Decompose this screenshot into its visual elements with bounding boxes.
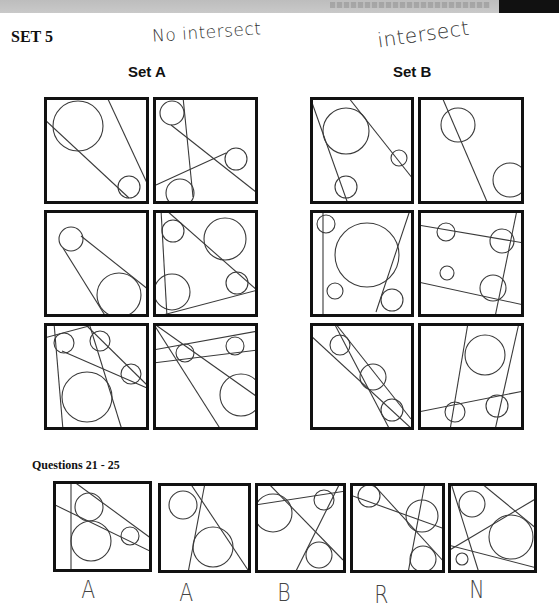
figure-circle xyxy=(154,274,190,310)
figure-circle xyxy=(459,491,485,517)
figure-circle xyxy=(90,331,110,351)
set-a-figure-6 xyxy=(153,323,258,430)
figure-line xyxy=(84,323,147,385)
figure-circle xyxy=(225,148,247,170)
figure-line xyxy=(418,225,524,243)
figure-circle xyxy=(317,215,335,233)
figure-line xyxy=(62,351,147,388)
figure-line xyxy=(107,97,147,183)
figure-line xyxy=(372,483,445,563)
figure-frame xyxy=(160,485,250,572)
handwritten-answer-24: R xyxy=(374,581,388,609)
set-a-figure-5 xyxy=(44,323,149,430)
figure-circle xyxy=(327,283,343,299)
figure-line xyxy=(73,481,152,539)
figure-circle xyxy=(54,333,74,353)
figure-circle xyxy=(254,494,292,532)
set-b-figure-3 xyxy=(310,210,414,317)
figure-line xyxy=(161,210,167,317)
figure-circle xyxy=(53,101,103,151)
figure-circle xyxy=(381,289,403,311)
page-title: SET 5 xyxy=(11,28,53,46)
figure-line xyxy=(348,97,413,179)
figure-line xyxy=(163,290,258,315)
figure-circle xyxy=(226,272,248,294)
set-b-figure-2 xyxy=(418,97,524,204)
figure-line xyxy=(63,248,106,317)
set-b-title: Set B xyxy=(393,63,431,80)
set-b-figure-1 xyxy=(310,97,414,204)
figure-circle xyxy=(440,266,454,280)
figure-line xyxy=(310,97,348,204)
figure-line xyxy=(495,323,519,430)
figure-line xyxy=(44,119,129,198)
figure-circle xyxy=(441,108,475,142)
set-a-figure-3 xyxy=(44,210,149,317)
header-text-blurred xyxy=(330,2,490,8)
figure-frame xyxy=(155,212,257,316)
figure-line xyxy=(188,483,205,573)
figure-circle xyxy=(456,553,468,565)
figure-frame xyxy=(450,485,536,572)
figure-frame xyxy=(46,325,148,429)
header-page-tab xyxy=(499,0,559,13)
figure-frame xyxy=(420,212,523,316)
set-a-figure-1 xyxy=(44,97,149,204)
figure-circle xyxy=(75,493,103,521)
figure-circle xyxy=(121,527,139,545)
figure-circle xyxy=(486,395,508,417)
figure-frame xyxy=(352,485,444,572)
set-b-figure-5 xyxy=(310,323,414,430)
figure-circle xyxy=(193,527,233,567)
figure-circle xyxy=(406,500,438,532)
figure-line xyxy=(451,483,479,573)
question-figure-21 xyxy=(53,481,152,572)
figure-circle xyxy=(437,223,455,241)
figure-circle xyxy=(162,220,184,242)
figure-circle xyxy=(62,372,112,422)
handwritten-answer-23: B xyxy=(277,579,290,607)
figure-line xyxy=(481,483,537,529)
handwritten-answer-25: N xyxy=(469,576,484,604)
question-figure-24 xyxy=(350,483,445,573)
handwritten-note-set-a: No intersect xyxy=(151,18,262,46)
figure-circle xyxy=(480,275,506,301)
figure-frame xyxy=(46,212,148,316)
set-a-figure-4 xyxy=(153,210,258,317)
set-b-figure-4 xyxy=(418,210,524,317)
figure-circle xyxy=(204,218,246,260)
figure-circle xyxy=(489,515,533,559)
set-a-figure-2 xyxy=(153,97,258,204)
figure-circle xyxy=(465,335,505,375)
figure-circle xyxy=(59,227,83,251)
figure-circle xyxy=(97,273,141,317)
figure-circle xyxy=(335,176,357,198)
handwritten-answer-22: A xyxy=(179,579,193,607)
figure-line xyxy=(350,495,445,529)
question-figure-25 xyxy=(448,483,537,573)
set-a-title: Set A xyxy=(128,63,166,80)
figure-circle xyxy=(118,176,140,198)
figure-circle xyxy=(160,101,184,125)
page-header-bar xyxy=(0,0,559,13)
figure-line xyxy=(418,282,524,305)
figure-circle xyxy=(306,542,332,568)
figure-circle xyxy=(358,485,380,507)
figure-circle xyxy=(71,521,111,561)
figure-circle xyxy=(169,491,197,519)
figure-line xyxy=(442,97,488,204)
figure-circle xyxy=(391,150,407,166)
figure-line xyxy=(81,236,149,290)
figure-circle xyxy=(410,546,436,572)
figure-circle xyxy=(323,108,369,154)
set-b-figure-6 xyxy=(418,323,524,430)
figure-line xyxy=(44,326,89,338)
figure-circle xyxy=(360,364,386,390)
figure-circle xyxy=(335,223,399,287)
questions-title: Questions 21 - 25 xyxy=(32,458,120,473)
figure-frame xyxy=(155,99,257,203)
handwritten-note-set-b: intersect xyxy=(376,16,471,53)
question-figure-22 xyxy=(158,483,251,573)
question-figure-23 xyxy=(255,483,346,573)
figure-circle xyxy=(330,335,350,355)
